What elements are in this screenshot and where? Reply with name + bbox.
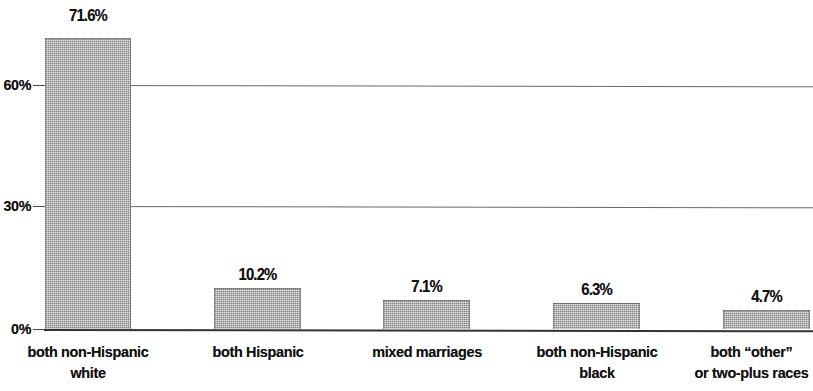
x-axis-label-line-1: both Hispanic bbox=[212, 343, 303, 360]
x-axis-label-line-2: white bbox=[14, 362, 163, 383]
x-axis-label-line-2: or two-plus races bbox=[694, 362, 808, 383]
x-axis-label-line-2: black bbox=[523, 362, 672, 383]
bar-mixed-marriages bbox=[383, 300, 470, 329]
bar-value-label-1: 71.6% bbox=[49, 6, 126, 25]
y-tick-label-30: 30% bbox=[2, 197, 31, 215]
gridline-30 bbox=[44, 206, 813, 208]
x-axis-label-both-non-hispanic-white: both non-Hispanic white bbox=[14, 341, 163, 383]
y-tick-label-60: 60% bbox=[2, 76, 31, 94]
bar-both-non-hispanic-black bbox=[553, 303, 640, 329]
bar-both-hispanic bbox=[214, 288, 301, 329]
bar-value-label-2: 10.2% bbox=[218, 265, 296, 284]
gridline-60 bbox=[44, 85, 813, 87]
bar-both-non-hispanic-white bbox=[45, 38, 131, 329]
x-axis-label-both-other-or-two-plus-races: both “other” or two-plus races bbox=[694, 341, 808, 383]
axis-baseline bbox=[44, 329, 813, 332]
bar-value-label-3: 7.1% bbox=[387, 277, 465, 296]
bar-value-label-5: 4.7% bbox=[727, 287, 805, 306]
y-tick-label-0: 0% bbox=[2, 320, 31, 338]
bar-chart: 60% 30% 0% 71.6% both non-Hispanic white… bbox=[0, 0, 813, 391]
y-tick-mark-60 bbox=[33, 85, 44, 86]
x-axis-label-line-1: both “other” bbox=[711, 343, 793, 360]
bar-value-label-4: 6.3% bbox=[557, 280, 635, 299]
x-axis-label-line-1: both non-Hispanic bbox=[28, 343, 149, 360]
x-axis-label-both-non-hispanic-black: both non-Hispanic black bbox=[523, 341, 672, 383]
x-axis-label-mixed-marriages: mixed marriages bbox=[356, 341, 497, 362]
x-axis-label-line-1: both non-Hispanic bbox=[537, 343, 658, 360]
y-tick-mark-30 bbox=[33, 206, 44, 207]
y-tick-mark-0 bbox=[33, 329, 44, 330]
bar-both-other-or-two-plus-races bbox=[723, 310, 810, 329]
x-axis-label-both-hispanic: both Hispanic bbox=[187, 341, 328, 362]
x-axis-label-line-1: mixed marriages bbox=[372, 343, 482, 360]
